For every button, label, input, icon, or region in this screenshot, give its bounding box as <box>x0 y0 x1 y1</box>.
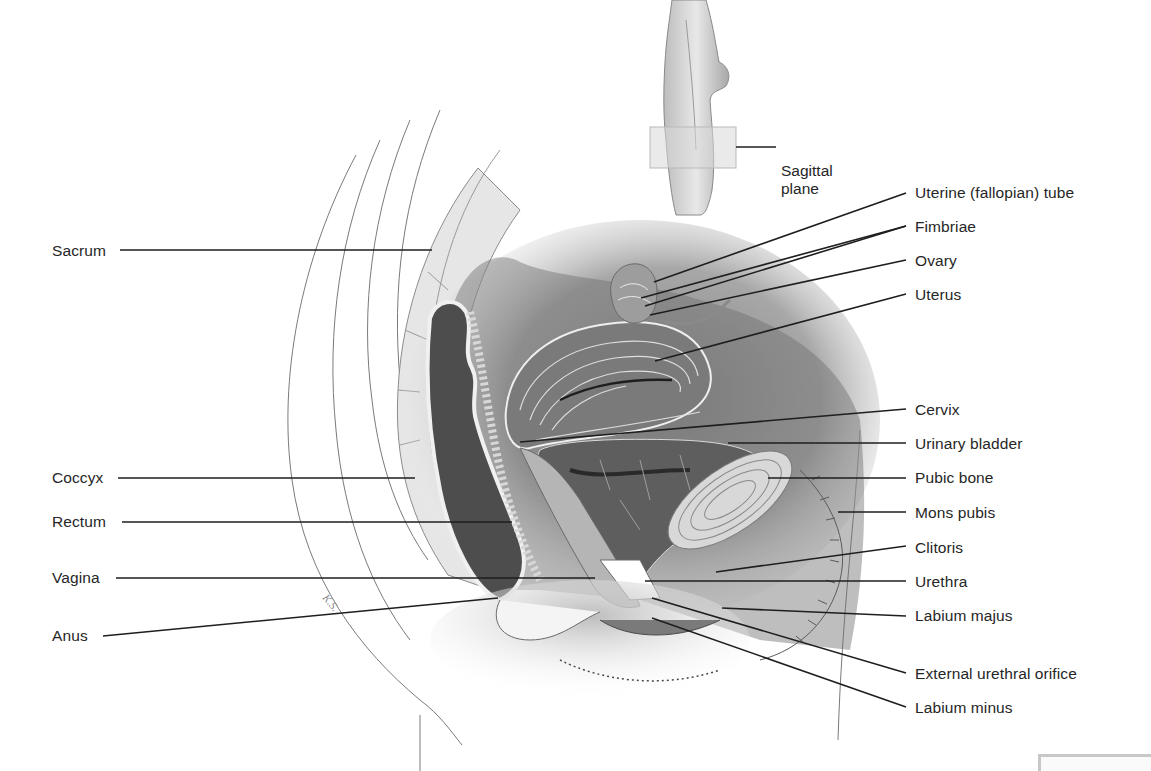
label-rectum: Rectum <box>52 513 106 531</box>
label-labium-minus: Labium minus <box>915 699 1013 717</box>
sagittal-plane-box <box>650 127 736 168</box>
sagittal-plane-label-line2: plane <box>781 180 833 198</box>
artist-signature: K.S. <box>320 591 342 614</box>
label-uterine-tube: Uterine (fallopian) tube <box>915 184 1074 202</box>
label-ovary: Ovary <box>915 252 957 270</box>
label-mons-pubis: Mons pubis <box>915 504 995 522</box>
label-pubic-bone: Pubic bone <box>915 469 994 487</box>
anatomy-illustration: K.S. <box>0 0 1151 771</box>
label-urethra: Urethra <box>915 573 967 591</box>
label-labium-majus: Labium majus <box>915 607 1013 625</box>
label-sacrum: Sacrum <box>52 242 106 260</box>
sagittal-plane-label: Sagittal plane <box>781 162 833 198</box>
inset-figure <box>650 0 776 215</box>
label-cervix: Cervix <box>915 401 960 419</box>
sagittal-plane-label-line1: Sagittal <box>781 162 833 180</box>
label-clitoris: Clitoris <box>915 539 963 557</box>
label-fimbriae: Fimbriae <box>915 218 976 236</box>
label-uterus: Uterus <box>915 286 961 304</box>
label-coccyx: Coccyx <box>52 469 103 487</box>
corner-frame <box>1038 754 1151 771</box>
label-anus: Anus <box>52 627 88 645</box>
label-urinary-bladder: Urinary bladder <box>915 435 1022 453</box>
label-external-urethral-orifice: External urethral orifice <box>915 665 1077 683</box>
label-vagina: Vagina <box>52 569 100 587</box>
